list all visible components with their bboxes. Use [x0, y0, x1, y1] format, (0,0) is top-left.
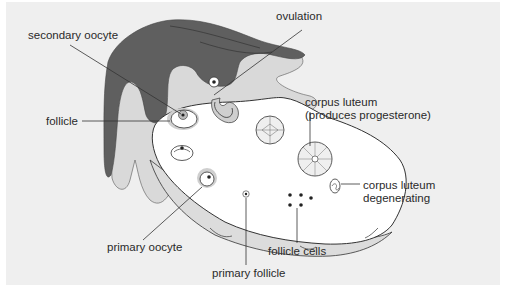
corpus-luteum-degenerating: [330, 179, 340, 193]
label-corpus-luteum-degenerating-line1: corpus luteum: [363, 179, 435, 192]
label-follicle-cells: follicle cells: [268, 245, 326, 258]
label-primary-follicle: primary follicle: [212, 267, 286, 280]
label-primary-oocyte: primary oocyte: [107, 241, 182, 254]
label-corpus-luteum-degenerating-line2: degenerating: [363, 192, 430, 205]
label-follicle: follicle: [46, 115, 78, 128]
label-corpus-luteum-line1: corpus luteum: [305, 96, 377, 109]
label-corpus-luteum-line2: (produces progesterone): [305, 109, 431, 122]
ovary-diagram: [0, 0, 513, 287]
primary-oocyte-follicle: [200, 172, 214, 186]
label-secondary-oocyte: secondary oocyte: [28, 29, 118, 42]
label-ovulation: ovulation: [276, 10, 322, 23]
